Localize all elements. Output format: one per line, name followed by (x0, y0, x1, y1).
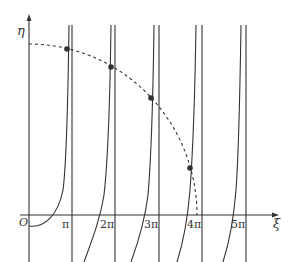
dashed-circle (29, 44, 197, 215)
curve-branch-1 (29, 25, 69, 226)
tick-label-4pi: 4π (187, 219, 201, 230)
eta-axis-label: η (17, 24, 25, 37)
eta-axis-arrow-icon (27, 14, 32, 21)
tick-label-pi: π (62, 219, 69, 230)
intersection-point-2 (108, 64, 114, 70)
diagram: η O ξ π 2π 3π 4π 5π (0, 0, 296, 262)
origin-label: O (19, 217, 28, 228)
tick-label-5pi: 5π (231, 219, 245, 230)
tick-label-2pi: 2π (100, 219, 114, 230)
intersection-point-4 (187, 165, 193, 171)
tick-label-3pi: 3π (144, 219, 158, 230)
intersection-point-1 (64, 46, 70, 52)
intersection-point-3 (148, 95, 154, 101)
xi-axis-label: ξ (273, 217, 280, 230)
